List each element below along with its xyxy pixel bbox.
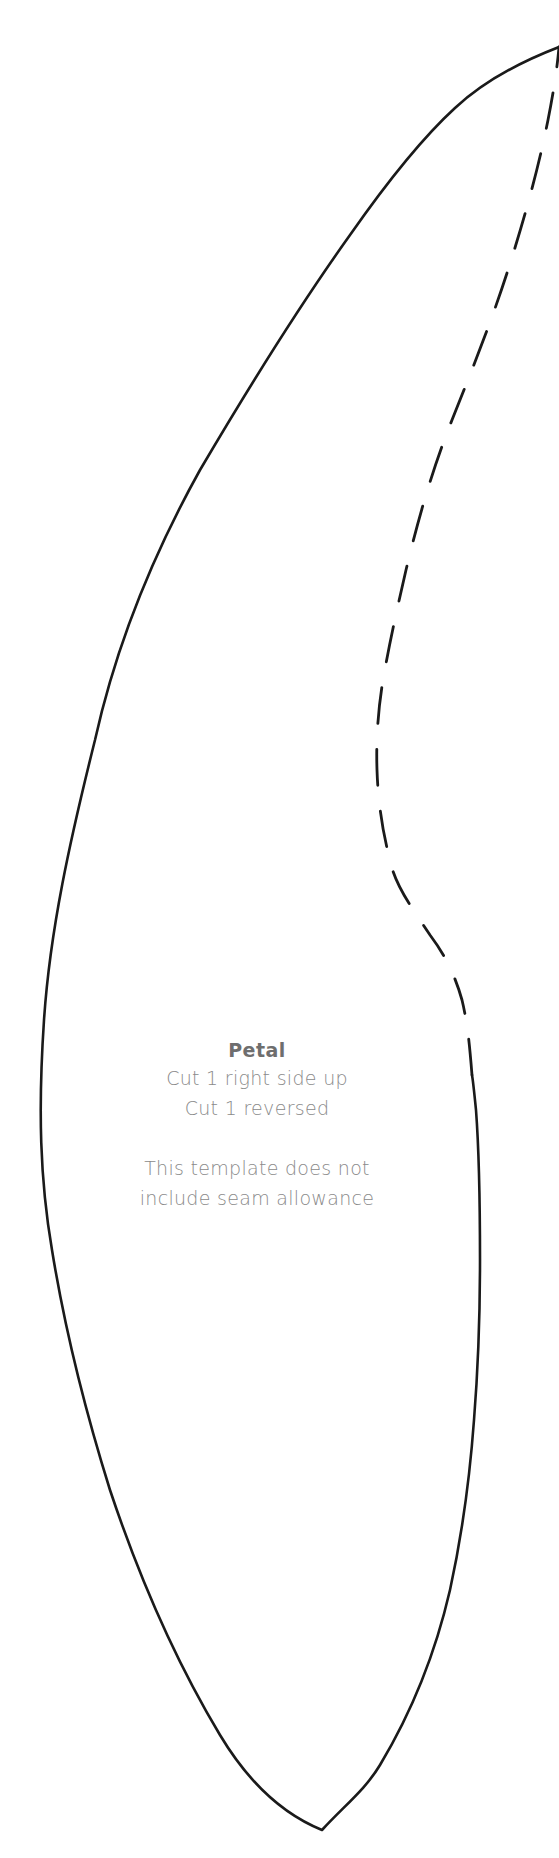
petal-outline-drawing: [0, 0, 559, 1858]
petal-dashed-seam-line: [377, 47, 559, 1075]
seam-allowance-note-line-2: include seam allowance: [97, 1183, 417, 1213]
label-spacer: [97, 1123, 417, 1153]
cut-instruction-1: Cut 1 right side up: [97, 1063, 417, 1093]
piece-name: Petal: [97, 1038, 417, 1063]
petal-cut-line: [41, 47, 559, 1830]
template-label: Petal Cut 1 right side up Cut 1 reversed…: [97, 1038, 417, 1213]
seam-allowance-note-line-1: This template does not: [97, 1153, 417, 1183]
cut-instruction-2: Cut 1 reversed: [97, 1093, 417, 1123]
petal-template-sheet: Petal Cut 1 right side up Cut 1 reversed…: [0, 0, 559, 1858]
